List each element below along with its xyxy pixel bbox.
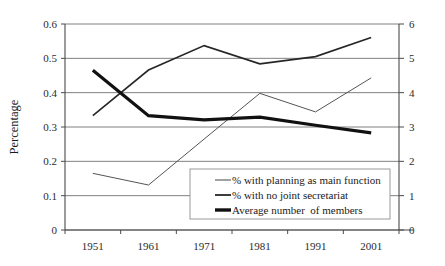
right-axis-tick-labels: 0123456 [409,18,415,236]
legend-item-label: % with no joint secretariat [232,189,348,201]
left-axis-tick-labels: 00.10.20.30.40.50.6 [43,18,57,236]
right-axis-tick-label: 4 [409,87,415,99]
data-series-line [93,70,371,132]
right-axis-tick-label: 1 [409,190,415,202]
right-axis-tick-label: 0 [409,224,415,236]
x-axis-tick-label: 1971 [193,240,215,252]
left-axis-tick-label: 0 [52,224,58,236]
left-axis-tick-label: 0.4 [43,87,57,99]
right-axis-tick-label: 2 [409,155,415,167]
y-axis-title: Percentage [7,99,21,154]
legend-item-label: Average number of members [232,204,363,216]
left-axis-tick-label: 0.1 [43,190,57,202]
left-axis-tick-label: 0.2 [43,155,57,167]
left-axis-ticks [61,24,65,230]
chart-legend: % with planning as main function% with n… [190,169,390,219]
data-series-layer [93,37,371,185]
right-axis-ticks [399,24,404,230]
x-axis-tick-label: 1981 [249,240,271,252]
left-axis-tick-label: 0.6 [43,18,57,30]
right-axis-tick-label: 3 [409,121,415,133]
x-axis-tick-labels: 195119611971198119912001 [82,240,382,252]
right-axis-tick-label: 5 [409,52,415,64]
left-axis-tick-label: 0.5 [43,52,57,64]
right-axis-tick-label: 6 [409,18,415,30]
chart-container: 00.10.20.30.40.50.6 0123456 195119611971… [0,0,445,266]
x-axis-tick-label: 1961 [138,240,160,252]
x-axis-tick-label: 2001 [360,240,382,252]
x-axis-tick-label: 1991 [305,240,327,252]
legend-item-label: % with planning as main function [232,174,381,186]
left-axis-tick-label: 0.3 [43,121,57,133]
x-axis-tick-label: 1951 [82,240,104,252]
x-axis-ticks [65,230,399,234]
line-chart: 00.10.20.30.40.50.6 0123456 195119611971… [0,0,445,266]
